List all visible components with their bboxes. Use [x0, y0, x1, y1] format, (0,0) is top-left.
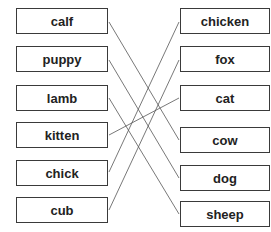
line-kitten-cat [109, 98, 179, 135]
right-label: cat [216, 91, 235, 106]
line-calf-cow [109, 22, 179, 140]
right-box-dog[interactable]: dog [180, 165, 270, 191]
left-label: cub [50, 203, 73, 218]
left-box-lamb[interactable]: lamb [16, 85, 108, 111]
right-label: cow [212, 133, 237, 148]
left-label: chick [45, 166, 78, 181]
right-label: sheep [206, 207, 244, 222]
line-cub-fox [109, 60, 179, 210]
left-label: kitten [45, 128, 80, 143]
left-box-calf[interactable]: calf [16, 8, 108, 34]
left-box-kitten[interactable]: kitten [16, 122, 108, 148]
right-label: dog [213, 171, 237, 186]
right-box-fox[interactable]: fox [180, 46, 270, 72]
line-lamb-sheep [109, 98, 179, 214]
left-label: puppy [43, 52, 82, 67]
right-box-chicken[interactable]: chicken [180, 8, 270, 34]
right-box-cow[interactable]: cow [180, 127, 270, 153]
right-label: chicken [201, 14, 249, 29]
left-box-puppy[interactable]: puppy [16, 46, 108, 72]
right-box-cat[interactable]: cat [180, 85, 270, 111]
left-box-cub[interactable]: cub [16, 197, 108, 223]
line-puppy-dog [109, 60, 179, 178]
left-label: calf [51, 14, 73, 29]
left-label: lamb [47, 91, 77, 106]
left-box-chick[interactable]: chick [16, 160, 108, 186]
right-label: fox [215, 52, 235, 67]
line-chick-chicken [109, 22, 179, 172]
right-box-sheep[interactable]: sheep [180, 201, 270, 227]
